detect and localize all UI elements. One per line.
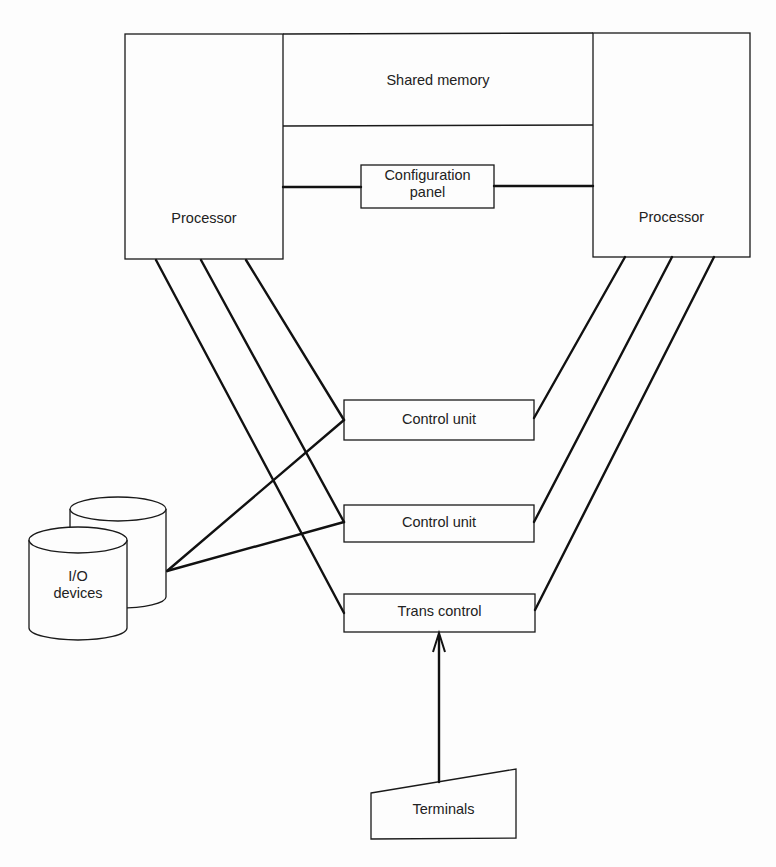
- shared-memory-divider: [283, 125, 593, 126]
- trans-control-label: Trans control: [344, 603, 535, 620]
- control-unit-1-label: Control unit: [344, 411, 534, 428]
- io-back-cylinder-top: [70, 497, 166, 521]
- processor-right-label: Processor: [593, 209, 750, 226]
- link-left-processor-cu1: [246, 260, 344, 420]
- terminals-label: Terminals: [371, 801, 516, 818]
- io-devices-label-line1: I/O: [29, 568, 127, 585]
- io-devices-label-line2: devices: [29, 585, 127, 602]
- link-left-processor-trans: [156, 260, 344, 613]
- config-panel-label-line2: panel: [361, 184, 494, 201]
- config-panel-label-line1: Configuration: [361, 167, 494, 184]
- config-panel-label: Configuration panel: [361, 167, 494, 200]
- processor-left-label: Processor: [125, 210, 283, 227]
- link-right-processor-cu1: [534, 257, 625, 418]
- control-unit-2-label: Control unit: [344, 514, 534, 531]
- io-devices-label: I/O devices: [29, 568, 127, 601]
- diagram-svg: [0, 0, 776, 867]
- link-io-cu1: [167, 420, 344, 571]
- shared-memory-label: Shared memory: [283, 72, 593, 89]
- io-front-cylinder-top: [29, 527, 127, 553]
- link-right-processor-trans: [535, 257, 714, 610]
- link-left-processor-cu2: [201, 260, 344, 522]
- diagram-canvas: Processor Processor Shared memory Config…: [0, 0, 776, 867]
- shared-memory-top-border: [283, 33, 593, 34]
